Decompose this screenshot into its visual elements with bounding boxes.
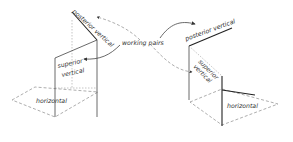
label-left-posterior-vertical: posterior vertical	[70, 7, 116, 49]
label-working-pairs: working pairs	[122, 39, 164, 47]
label-left-horizontal: horizontal	[36, 97, 67, 104]
label-right-horizontal: horizontal	[227, 102, 258, 109]
label-right-posterior-vertical: posterior vertical	[183, 17, 237, 43]
dashed-curve-to-right-superior	[150, 44, 192, 72]
left-superior-vertical-plane	[55, 40, 97, 58]
semicircular-canals-diagram: posterior vertical superior vertical hor…	[0, 0, 293, 142]
solid-arrow-to-left-superior	[84, 45, 120, 59]
label-left-vertical: vertical	[61, 66, 85, 78]
right-horizontal-edge	[222, 90, 255, 95]
